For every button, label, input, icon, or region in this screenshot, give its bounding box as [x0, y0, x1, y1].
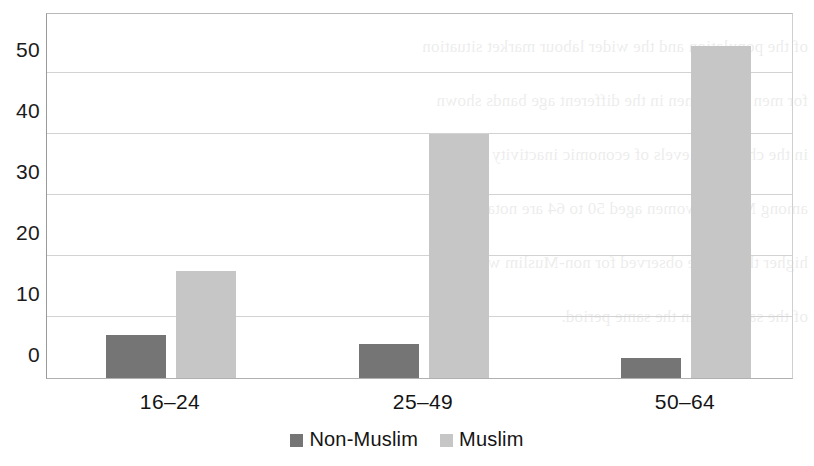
- y-tick-label: 0: [2, 343, 40, 367]
- x-tick-label-0: 16–24: [140, 390, 200, 414]
- legend-label: Muslim: [459, 428, 524, 451]
- legend-swatch-non-muslim-icon: [290, 434, 303, 447]
- y-tick-label: 50: [2, 38, 40, 62]
- bar-muslim-50-64[interactable]: [691, 46, 751, 378]
- bar-non-muslim-25-49[interactable]: [359, 344, 419, 378]
- x-tick-label-2: 50–64: [655, 390, 715, 414]
- x-tick-label-1: 25–49: [393, 390, 453, 414]
- bar-muslim-16-24[interactable]: [176, 271, 236, 378]
- y-tick-label: 10: [2, 282, 40, 306]
- y-tick-label: 40: [2, 99, 40, 123]
- bar-non-muslim-50-64[interactable]: [621, 358, 681, 378]
- legend-item-muslim[interactable]: Muslim: [440, 428, 524, 451]
- y-tick-label: 60: [2, 0, 40, 1]
- plot-area: [46, 13, 793, 379]
- legend-swatch-muslim-icon: [440, 434, 453, 447]
- y-axis: 0102030405060: [0, 13, 40, 379]
- gridline-30: [47, 194, 792, 195]
- y-tick-label: 20: [2, 221, 40, 245]
- bar-chart: 0102030405060 16–2425–4950–64 Non-Muslim…: [0, 0, 814, 466]
- bar-non-muslim-16-24[interactable]: [106, 335, 166, 378]
- bar-muslim-25-49[interactable]: [429, 134, 489, 378]
- gridline-20: [47, 255, 792, 256]
- gridline-50: [47, 72, 792, 73]
- legend-label: Non-Muslim: [309, 428, 418, 451]
- gridline-40: [47, 133, 792, 134]
- y-tick-label: 30: [2, 160, 40, 184]
- gridline-10: [47, 316, 792, 317]
- legend-item-non-muslim[interactable]: Non-Muslim: [290, 428, 418, 451]
- chart-legend: Non-MuslimMuslim: [0, 428, 814, 451]
